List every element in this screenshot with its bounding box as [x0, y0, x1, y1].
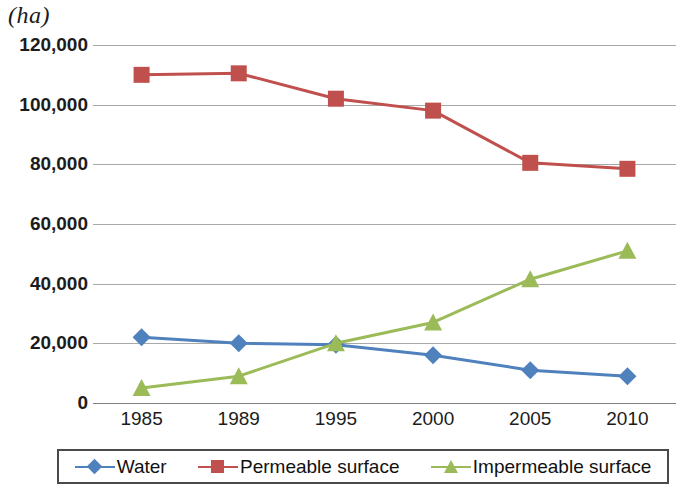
- x-axis-tick-label: 1989: [218, 408, 260, 430]
- series-line: [142, 337, 628, 376]
- legend-item-impermeable-surface[interactable]: Impermeable surface: [427, 456, 655, 478]
- triangle-marker-icon: [444, 460, 458, 473]
- x-axis-tick-label: 1995: [315, 408, 357, 430]
- gridline: [93, 403, 676, 404]
- x-axis-tick-label: 2010: [606, 408, 648, 430]
- data-point-marker: [133, 328, 151, 346]
- series-layer: [93, 45, 676, 403]
- legend-item-permeable-surface[interactable]: Permeable surface: [194, 456, 403, 478]
- y-axis-tick-label: 100,000: [2, 94, 88, 116]
- legend-swatch: [198, 459, 238, 475]
- x-axis-tick-label: 2000: [412, 408, 454, 430]
- data-point-marker: [521, 361, 539, 379]
- data-point-marker: [618, 242, 636, 259]
- x-axis-tick-label: 1985: [120, 408, 162, 430]
- series-water: [133, 328, 637, 385]
- y-axis-tick-label: 20,000: [2, 332, 88, 354]
- line-chart: (ha) 120,000100,00080,00060,00040,00020,…: [0, 0, 687, 491]
- legend-label: Impermeable surface: [473, 456, 651, 478]
- y-axis-tick-label: 120,000: [2, 34, 88, 56]
- y-axis-tick-label: 60,000: [2, 213, 88, 235]
- data-point-marker: [424, 313, 442, 330]
- legend-swatch: [75, 459, 115, 475]
- series-line: [142, 73, 628, 168]
- plot-area: [93, 45, 676, 403]
- data-point-marker: [424, 346, 442, 364]
- data-point-marker: [134, 67, 150, 83]
- series-line: [142, 251, 628, 388]
- square-marker-icon: [211, 460, 224, 473]
- y-axis-tick-label: 40,000: [2, 273, 88, 295]
- y-axis-unit-label: (ha): [8, 2, 50, 29]
- x-axis-tick-labels: 198519891995200020052010: [93, 408, 676, 438]
- legend-swatch: [431, 459, 471, 475]
- series-permeable-surface: [134, 65, 636, 176]
- data-point-marker: [619, 161, 635, 177]
- data-point-marker: [231, 65, 247, 81]
- data-point-marker: [522, 155, 538, 171]
- data-point-marker: [618, 367, 636, 385]
- legend-label: Water: [117, 456, 167, 478]
- chart-legend: WaterPermeable surfaceImpermeable surfac…: [57, 449, 669, 484]
- y-axis-tick-labels: 120,000100,00080,00060,00040,00020,0000: [0, 45, 88, 403]
- diamond-marker-icon: [86, 458, 102, 474]
- y-axis-tick-label: 0: [2, 392, 88, 414]
- data-point-marker: [230, 334, 248, 352]
- x-axis-tick-label: 2005: [509, 408, 551, 430]
- y-axis-tick-label: 80,000: [2, 153, 88, 175]
- legend-item-water[interactable]: Water: [71, 456, 171, 478]
- data-point-marker: [328, 91, 344, 107]
- legend-label: Permeable surface: [240, 456, 399, 478]
- data-point-marker: [425, 103, 441, 119]
